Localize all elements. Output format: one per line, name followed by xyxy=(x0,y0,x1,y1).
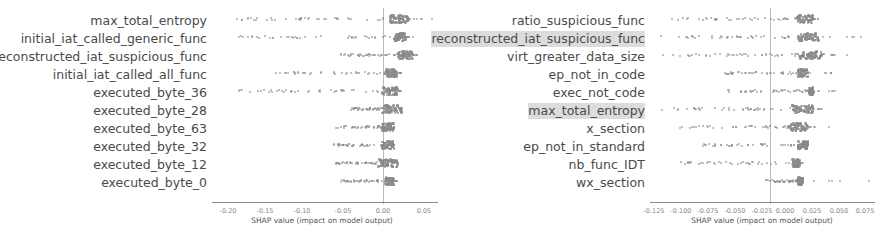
data-point xyxy=(385,129,388,132)
data-point xyxy=(316,18,318,20)
data-point xyxy=(720,162,722,164)
data-point xyxy=(698,54,700,56)
data-point xyxy=(355,127,357,129)
data-point xyxy=(381,141,384,144)
data-point xyxy=(726,36,728,38)
data-point xyxy=(752,37,754,39)
data-point xyxy=(721,127,723,129)
data-point xyxy=(268,91,270,93)
x-tick: 0.05 xyxy=(417,207,431,215)
data-point xyxy=(723,107,725,109)
data-point xyxy=(391,122,394,125)
data-point xyxy=(813,108,815,110)
x-tick: 0.025 xyxy=(803,207,822,215)
data-point xyxy=(817,57,820,60)
data-point xyxy=(755,35,757,37)
data-point xyxy=(791,158,794,161)
data-point xyxy=(274,19,276,21)
data-point xyxy=(677,109,679,111)
data-point xyxy=(751,161,753,163)
data-point xyxy=(320,35,322,37)
feature-label: executed_byte_32 xyxy=(93,139,207,155)
feature-label: virt_greater_data_size xyxy=(507,49,645,65)
data-point xyxy=(797,166,800,169)
data-point xyxy=(345,125,347,127)
data-point xyxy=(404,39,407,42)
data-point xyxy=(297,72,299,74)
data-point xyxy=(369,144,371,146)
data-point xyxy=(673,107,675,109)
data-point xyxy=(393,107,396,110)
data-point xyxy=(798,148,801,151)
data-point xyxy=(413,18,415,20)
data-point xyxy=(368,53,370,55)
data-point xyxy=(698,125,700,127)
data-point xyxy=(660,35,662,37)
data-point xyxy=(379,19,381,21)
data-point xyxy=(752,144,754,146)
x-tick: -0.10 xyxy=(294,207,311,215)
data-point xyxy=(801,75,804,78)
data-point xyxy=(318,18,320,20)
data-point xyxy=(290,91,292,93)
data-point xyxy=(807,20,810,23)
data-point xyxy=(398,22,401,25)
data-point xyxy=(754,54,756,56)
data-point xyxy=(695,53,697,55)
data-point xyxy=(807,56,810,59)
data-point xyxy=(805,107,808,110)
data-point xyxy=(353,144,355,146)
data-point xyxy=(744,126,746,128)
x-axis xyxy=(650,202,875,203)
data-point xyxy=(287,72,289,74)
data-point xyxy=(709,161,711,163)
data-point xyxy=(764,17,766,19)
data-point xyxy=(679,127,681,129)
data-point xyxy=(260,90,262,92)
data-point xyxy=(750,35,752,37)
feature-label: max_total_entropy xyxy=(90,13,207,29)
data-point xyxy=(755,71,757,73)
data-point xyxy=(661,109,663,111)
feature-label: executed_byte_36 xyxy=(93,85,207,101)
data-point xyxy=(714,19,716,21)
feature-label: executed_byte_28 xyxy=(93,103,207,119)
data-point xyxy=(372,90,374,92)
data-point xyxy=(386,54,388,56)
data-point xyxy=(801,35,804,38)
data-point xyxy=(765,53,767,55)
data-point xyxy=(412,58,415,61)
data-point xyxy=(738,18,740,20)
feature-label: x_section xyxy=(586,121,645,137)
data-point xyxy=(766,162,768,164)
data-point xyxy=(813,40,816,43)
data-point xyxy=(236,18,238,20)
data-point xyxy=(714,163,716,165)
data-point xyxy=(686,18,688,20)
data-point xyxy=(763,35,765,37)
data-point xyxy=(792,72,794,74)
data-point xyxy=(709,55,711,57)
data-point xyxy=(781,90,783,92)
data-point xyxy=(392,16,395,19)
data-point xyxy=(690,161,692,163)
data-point xyxy=(791,129,794,132)
data-point xyxy=(834,90,836,92)
data-point xyxy=(355,36,357,38)
data-point xyxy=(355,180,357,182)
data-point xyxy=(678,36,680,38)
data-point xyxy=(258,37,260,39)
data-point xyxy=(791,104,794,107)
data-point xyxy=(255,19,257,21)
data-point xyxy=(350,72,352,74)
data-point xyxy=(811,111,814,114)
data-point xyxy=(754,17,756,19)
data-point xyxy=(416,18,418,20)
data-point xyxy=(682,17,684,19)
data-point xyxy=(787,144,789,146)
data-point xyxy=(747,55,749,57)
data-point xyxy=(250,17,252,19)
data-point xyxy=(335,90,337,92)
data-point xyxy=(397,15,400,18)
x-axis xyxy=(212,202,438,203)
